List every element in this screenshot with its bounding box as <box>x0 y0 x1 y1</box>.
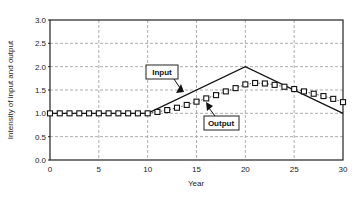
output-marker <box>233 86 238 91</box>
output-marker <box>331 96 336 101</box>
output-arrow-icon <box>206 102 213 111</box>
output-arrow-line <box>209 108 215 116</box>
output-marker <box>184 102 189 107</box>
output-marker <box>145 111 150 116</box>
x-tick-label: 15 <box>192 165 201 174</box>
output-marker <box>341 100 346 105</box>
output-marker <box>262 81 267 86</box>
input-arrow-line <box>174 79 180 88</box>
output-marker <box>243 82 248 87</box>
x-tick-label: 5 <box>97 165 102 174</box>
chart: 0.00.51.01.52.02.53.0 051015202530 Year … <box>0 0 363 198</box>
output-marker <box>174 105 179 110</box>
output-marker <box>311 91 316 96</box>
x-tick-label: 20 <box>241 165 250 174</box>
output-marker <box>165 108 170 113</box>
output-marker <box>301 89 306 94</box>
output-marker <box>57 111 62 116</box>
x-axis-label: Year <box>188 179 205 188</box>
output-marker <box>135 111 140 116</box>
output-marker <box>204 96 209 101</box>
output-marker <box>253 81 258 86</box>
y-tick-label: 0.5 <box>35 133 47 142</box>
output-marker <box>282 84 287 89</box>
x-axis-ticks: 051015202530 <box>48 165 348 174</box>
output-marker <box>87 111 92 116</box>
output-marker <box>292 87 297 92</box>
y-tick-label: 1.5 <box>35 86 47 95</box>
output-marker <box>214 93 219 98</box>
y-tick-label: 2.5 <box>35 39 47 48</box>
y-axis-label: Intensity of input and output <box>6 40 15 139</box>
output-annotation-label: Output <box>208 119 235 128</box>
input-arrow-icon <box>176 84 184 93</box>
output-marker <box>155 109 160 114</box>
annotations: Input Output <box>146 65 239 130</box>
x-tick-label: 25 <box>290 165 299 174</box>
x-tick-label: 30 <box>339 165 348 174</box>
output-marker <box>321 94 326 99</box>
output-marker <box>96 111 101 116</box>
output-marker <box>126 111 131 116</box>
output-marker <box>67 111 72 116</box>
y-tick-label: 2.0 <box>35 63 47 72</box>
y-axis-ticks: 0.00.51.01.52.02.53.0 <box>35 16 50 165</box>
y-tick-label: 3.0 <box>35 16 47 25</box>
y-tick-label: 0.0 <box>35 156 47 165</box>
input-annotation-label: Input <box>152 68 172 77</box>
output-marker <box>77 111 82 116</box>
output-marker <box>194 99 199 104</box>
output-marker <box>106 111 111 116</box>
y-tick-label: 1.0 <box>35 109 47 118</box>
output-marker <box>48 111 53 116</box>
x-tick-label: 10 <box>143 165 152 174</box>
output-marker <box>223 89 228 94</box>
output-marker <box>272 82 277 87</box>
x-tick-label: 0 <box>48 165 53 174</box>
output-marker <box>116 111 121 116</box>
